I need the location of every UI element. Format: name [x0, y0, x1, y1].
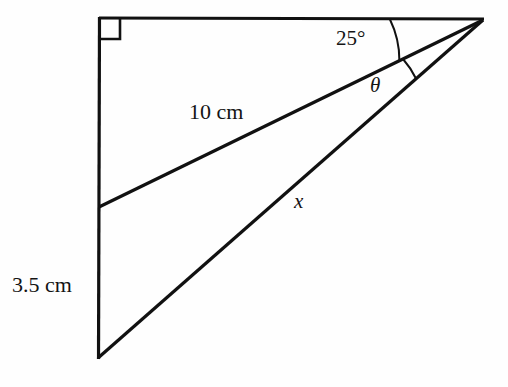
segment-top-horizontal: [99, 18, 484, 19]
label-25-degrees: 25°: [336, 28, 365, 49]
diagram-canvas: [0, 0, 508, 387]
segment-hypotenuse-x: [98, 20, 483, 358]
label-theta: θ: [370, 75, 380, 96]
geometry-diagram: 10 cm 3.5 cm 25° θ x: [0, 0, 508, 387]
right-angle-icon: [99, 18, 120, 39]
label-10cm: 10 cm: [189, 101, 243, 123]
label-x: x: [294, 191, 303, 212]
angle-arc-25-degrees: [390, 20, 399, 61]
segment-cevian-10cm: [99, 20, 483, 207]
label-3-5cm: 3.5 cm: [12, 274, 72, 296]
angle-arc-theta: [403, 59, 416, 79]
segment-left-vertical: [99, 17, 100, 359]
